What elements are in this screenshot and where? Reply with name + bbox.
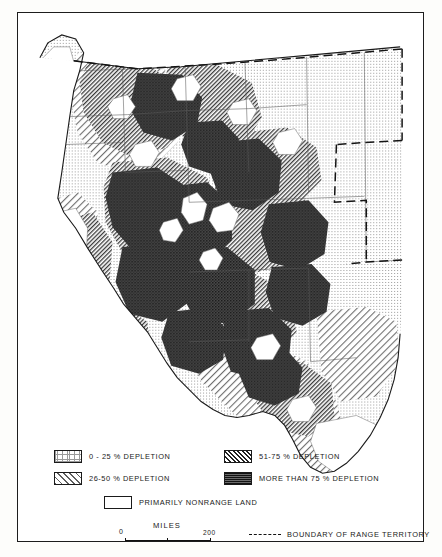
legend-item-boundary: BOUNDARY OF RANGE TERRITORY [249, 530, 430, 539]
legend-item-0-25: 0 - 25 % DEPLETION [54, 450, 170, 463]
legend-label-51-75: 51-75 % DEPLETION [259, 452, 340, 460]
legend-label-26-50: 26-50 % DEPLETION [89, 474, 170, 482]
map-frame: 0 - 25 % DEPLETION 26-50 % DEPLETION 51-… [17, 12, 424, 542]
legend-swatch-75-plus [224, 472, 252, 485]
legend-swatch-0-25 [54, 450, 82, 463]
legend-item-26-50: 26-50 % DEPLETION [54, 472, 170, 485]
legend-label-nonrange: PRIMARILY NONRANGE LAND [139, 498, 257, 506]
scale-bar-title: MILES [153, 521, 181, 530]
figure-root: 0 - 25 % DEPLETION 26-50 % DEPLETION 51-… [0, 0, 442, 557]
legend-label-boundary: BOUNDARY OF RANGE TERRITORY [287, 530, 430, 539]
legend-label-0-25: 0 - 25 % DEPLETION [89, 452, 170, 460]
legend-item-51-75: 51-75 % DEPLETION [224, 450, 340, 463]
scale-bar-min-label: 0 [119, 528, 123, 535]
legend-swatch-51-75 [224, 450, 252, 463]
scale-bar-tick [167, 538, 168, 541]
scale-bar-max-label: 200 [203, 529, 216, 536]
legend-item-75-plus: MORE THAN 75 % DEPLETION [224, 472, 379, 485]
legend-label-75-plus: MORE THAN 75 % DEPLETION [259, 474, 379, 482]
dashed-line-icon [249, 534, 281, 535]
legend: 0 - 25 % DEPLETION 26-50 % DEPLETION 51-… [36, 450, 406, 538]
legend-item-nonrange: PRIMARILY NONRANGE LAND [104, 496, 257, 509]
legend-swatch-26-50 [54, 472, 82, 485]
legend-swatch-nonrange [104, 496, 132, 509]
